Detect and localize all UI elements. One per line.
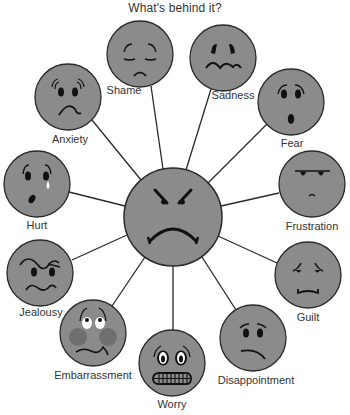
fear-face (258, 69, 324, 135)
hurt-face (4, 151, 70, 217)
embarrassment-face (60, 300, 126, 366)
shame-face (107, 21, 173, 87)
diagram-title: What's behind it? (0, 1, 350, 15)
label-embarrassment: Embarrassment (54, 369, 132, 381)
connector-shame (151, 86, 163, 169)
connector-jealousy (72, 235, 127, 260)
label-jealousy: Jealousy (19, 306, 62, 318)
anxiety-face (35, 64, 101, 130)
connector-frustration (221, 193, 279, 206)
worry-face (139, 330, 205, 396)
label-sadness: Sadness (212, 89, 255, 101)
connector-disappointment (202, 257, 236, 310)
left-cheek (69, 328, 87, 346)
label-disappointment: Disappointment (218, 374, 294, 386)
frustration-face (279, 151, 345, 217)
right-cheek (99, 328, 117, 346)
label-frustration: Frustration (286, 220, 339, 232)
connector-guilt (218, 236, 277, 263)
label-guilt: Guilt (297, 311, 320, 323)
emotion-diagram (0, 0, 350, 415)
connector-sadness (186, 89, 211, 170)
connector-hurt (69, 192, 125, 206)
anger-face (124, 168, 222, 266)
label-worry: Worry (157, 398, 186, 410)
label-hurt: Hurt (27, 219, 48, 231)
sadness-face (190, 25, 256, 91)
guilt-face (275, 242, 341, 308)
connector-fear (208, 124, 267, 183)
label-fear: Fear (281, 137, 304, 149)
jealousy-face (7, 240, 73, 306)
label-anxiety: Anxiety (52, 133, 88, 145)
connector-embarrassment (112, 257, 145, 306)
label-shame: Shame (107, 84, 142, 96)
disappointment-face (220, 305, 286, 371)
connector-anxiety (92, 120, 141, 180)
